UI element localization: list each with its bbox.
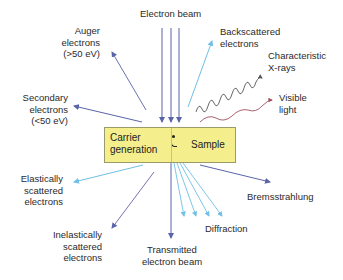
- electron-beam-arrows: [162, 28, 179, 122]
- visible-light-wave: [200, 100, 272, 122]
- carrier-label-line1: Carrier: [110, 132, 141, 144]
- xrays-label-line2: X-rays: [268, 62, 326, 74]
- sample-box: Carrier generation Sample: [104, 127, 236, 163]
- carrier-icon: [172, 135, 175, 138]
- carrier-label-line2: generation: [110, 144, 157, 156]
- transmitted-label: Transmitted electron beam: [136, 244, 208, 267]
- sample-label: Sample: [191, 139, 225, 151]
- elastic-label-line1: Elastically: [10, 173, 63, 185]
- auger-arrow: [112, 52, 146, 110]
- secondary-arrow: [74, 106, 142, 122]
- visible-light-label-line2: light: [279, 104, 307, 116]
- inelastic-label: Inelastically scattered electrons: [40, 229, 102, 264]
- auger-label-line3: (>50 eV): [60, 48, 100, 60]
- sample-divider: [171, 128, 172, 162]
- secondary-label-line3: (<50 eV): [10, 115, 68, 127]
- backscattered-label-line2: electrons: [220, 38, 280, 50]
- auger-label-line1: Auger: [60, 25, 100, 37]
- bremsstrahlung-arrow: [200, 165, 270, 182]
- xrays-label: Characteristic X-rays: [268, 50, 326, 73]
- inelastic-arrow: [112, 172, 154, 228]
- diffraction-label: Diffraction: [205, 223, 248, 235]
- auger-label: Auger electrons (>50 eV): [60, 25, 100, 60]
- xray-wave: [196, 78, 262, 113]
- diffraction-arrows: [174, 163, 222, 216]
- elastic-label: Elastically scattered electrons: [10, 173, 63, 208]
- elastic-label-line3: electrons: [10, 196, 63, 208]
- electron-beam-label: Electron beam: [140, 8, 201, 20]
- elastic-label-line2: scattered: [10, 185, 63, 197]
- secondary-label-line2: electrons: [10, 104, 68, 116]
- transmitted-label-line2: electron beam: [136, 256, 208, 268]
- inelastic-label-line3: electrons: [40, 252, 102, 264]
- visible-light-label-line1: Visible: [279, 92, 307, 104]
- inelastic-label-line1: Inelastically: [40, 229, 102, 241]
- secondary-label-line1: Secondary: [10, 92, 68, 104]
- backscattered-label: Backscattered electrons: [220, 26, 280, 49]
- xrays-label-line1: Characteristic: [268, 50, 326, 62]
- backscattered-arrow: [188, 41, 212, 107]
- backscattered-label-line1: Backscattered: [220, 26, 280, 38]
- elastic-arrow: [74, 165, 143, 182]
- inelastic-label-line2: scattered: [40, 241, 102, 253]
- bremsstrahlung-label: Bremsstrahlung: [247, 191, 314, 203]
- transmitted-label-line1: Transmitted: [136, 244, 208, 256]
- secondary-label: Secondary electrons (<50 eV): [10, 92, 68, 127]
- auger-label-line2: electrons: [60, 37, 100, 49]
- visible-light-label: Visible light: [279, 92, 307, 115]
